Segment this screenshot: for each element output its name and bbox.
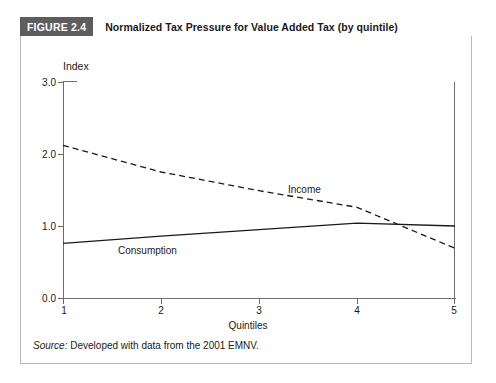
x-tick-label-1: 1 [61, 305, 67, 316]
figure-title: Normalized Tax Pressure for Value Added … [93, 17, 398, 36]
figure-header: FIGURE 2.4 Normalized Tax Pressure for V… [20, 17, 472, 36]
x-axis-title: Quintiles [0, 320, 496, 331]
x-tick-mark-2 [161, 298, 162, 304]
y-axis-title: Index [63, 60, 89, 72]
series-label-income: Income [288, 184, 321, 195]
y-tick-mark-2 [58, 154, 64, 155]
figure-container: FIGURE 2.4 Normalized Tax Pressure for V… [0, 0, 496, 383]
y-tick-label-2: 2.0 [42, 149, 56, 160]
x-tick-label-3: 3 [256, 305, 262, 316]
source-note: Source: Developed with data from the 200… [33, 340, 259, 351]
x-tick-mark-3 [259, 298, 260, 304]
plot-area [63, 82, 456, 299]
y-tick-mark-3 [58, 82, 64, 83]
x-tick-label-2: 2 [158, 305, 164, 316]
y-tick-mark-1 [58, 226, 64, 227]
x-tick-mark-1 [63, 298, 64, 304]
y-tick-label-1: 1.0 [42, 221, 56, 232]
plot-right-border [454, 82, 455, 299]
x-tick-mark-5 [454, 298, 455, 304]
source-note-label: Source: [33, 340, 67, 351]
series-label-consumption: Consumption [118, 245, 177, 256]
source-note-text: Developed with data from the 2001 EMNV. [67, 340, 258, 351]
figure-number-badge: FIGURE 2.4 [20, 17, 93, 36]
y-tick-label-0: 0.0 [42, 293, 56, 304]
x-tick-mark-4 [357, 298, 358, 304]
x-tick-label-5: 5 [451, 305, 457, 316]
x-tick-label-4: 4 [354, 305, 360, 316]
y-axis-top-cap [63, 81, 77, 82]
y-tick-label-3: 3.0 [42, 77, 56, 88]
